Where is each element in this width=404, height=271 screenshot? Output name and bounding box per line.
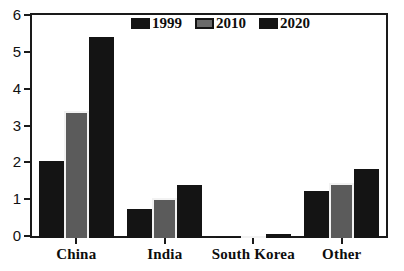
x-tick-mark <box>341 238 343 244</box>
y-tick-mark <box>24 14 30 16</box>
x-axis-label-china: China <box>56 246 96 263</box>
legend-entry-1999[interactable]: 1999 <box>131 16 182 31</box>
bar-south-korea-2020 <box>266 234 291 238</box>
y-tick-label: 4 <box>13 79 21 98</box>
y-tick-label: 6 <box>13 5 21 24</box>
legend-entry-2010[interactable]: 2010 <box>195 16 246 31</box>
legend-swatch-icon-1999 <box>131 18 150 29</box>
y-tick-label: 0 <box>13 226 21 245</box>
bar-india-2010 <box>152 198 177 238</box>
y-tick-mark <box>24 88 30 90</box>
y-tick-mark <box>24 125 30 127</box>
bar-other-2020 <box>354 169 379 238</box>
legend-swatch-icon-2020 <box>259 18 278 29</box>
bar-other-2010 <box>329 183 354 238</box>
bars-layer <box>32 15 386 238</box>
x-tick-mark <box>252 238 254 244</box>
bar-india-1999 <box>127 209 152 238</box>
x-tick-mark <box>75 238 77 244</box>
x-axis-label-south-korea: South Korea <box>212 246 295 263</box>
bar-other-1999 <box>304 191 329 239</box>
bar-china-2010 <box>64 111 89 238</box>
y-tick-mark <box>24 51 30 53</box>
x-axis-label-other: Other <box>322 246 361 263</box>
bar-india-2020 <box>177 185 202 238</box>
y-tick-label: 1 <box>13 189 21 208</box>
legend-label-2010: 2010 <box>216 16 246 31</box>
legend-entry-2020[interactable]: 2020 <box>259 16 310 31</box>
y-tick-mark <box>24 198 30 200</box>
legend-label-1999: 1999 <box>152 16 182 31</box>
bar-south-korea-1999 <box>216 237 241 238</box>
bar-china-2020 <box>89 37 114 238</box>
legend-label-2020: 2020 <box>280 16 310 31</box>
chart-legend: 199920102020 <box>131 16 310 31</box>
x-tick-mark <box>164 238 166 244</box>
y-tick-label: 3 <box>13 116 21 135</box>
y-tick-mark <box>24 161 30 163</box>
bar-chart: 0123456 ChinaIndiaSouth KoreaOther 19992… <box>0 0 404 271</box>
legend-swatch-icon-2010 <box>195 18 214 29</box>
y-tick-label: 5 <box>13 42 21 61</box>
y-tick-mark <box>24 235 30 237</box>
bar-china-1999 <box>39 161 64 238</box>
y-tick-label: 2 <box>13 152 21 171</box>
x-axis-label-india: India <box>147 246 182 263</box>
